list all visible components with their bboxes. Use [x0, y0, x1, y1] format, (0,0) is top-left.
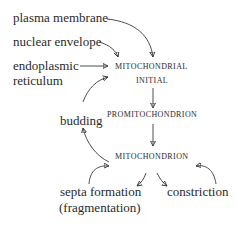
arrow-septa-to-mito — [89, 166, 109, 184]
arrow-budding-to-initial — [83, 77, 108, 102]
arrow-mito-to-constriction — [157, 173, 167, 186]
label-plasma-membrane: plasma membrane — [13, 10, 108, 25]
process-fragmentation: (fragmentation) — [59, 200, 141, 215]
stage-mitochondrial-initial-line2: Initial — [136, 76, 168, 86]
label-endoplasmic: endoplasmic — [13, 58, 79, 73]
process-budding: budding — [60, 113, 103, 128]
label-reticulum: reticulum — [13, 73, 63, 88]
stage-mitochondrial-initial-line1: Mitochondrial — [115, 62, 188, 72]
stage-promitochondrion: Promitochondrion — [107, 110, 197, 120]
process-septa-formation: septa formation — [60, 184, 141, 199]
arrow-plasma-to-initial — [107, 19, 153, 57]
arrow-nuclear-to-initial — [99, 42, 118, 57]
stage-mitochondrion: Mitochondrion — [115, 152, 189, 162]
label-nuclear-envelope: nuclear envelope — [13, 34, 101, 49]
arrow-mito-to-budding — [83, 128, 109, 162]
mitochondria-origin-diagram: plasma membrane nuclear envelope endopla… — [0, 0, 236, 225]
arrow-constriction-to-mito — [196, 166, 216, 184]
process-constriction: constriction — [167, 184, 228, 199]
